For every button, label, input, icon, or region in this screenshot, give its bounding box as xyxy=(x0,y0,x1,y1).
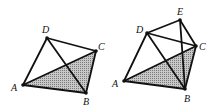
vertex-point-c xyxy=(194,44,198,48)
vertex-point-e xyxy=(178,18,182,22)
vertex-label-b: B xyxy=(184,93,190,104)
vertex-point-a xyxy=(122,79,126,83)
vertex-point-b xyxy=(84,91,88,95)
vertex-label-d: D xyxy=(135,24,144,35)
vertex-label-a: A xyxy=(10,82,18,93)
figure-left-quadrilateral: ABCD xyxy=(10,24,105,107)
vertex-point-a xyxy=(21,83,25,87)
vertex-label-b: B xyxy=(83,96,89,107)
geometry-diagram: ABCD ABCDE xyxy=(0,0,221,112)
vertex-point-b xyxy=(183,87,187,91)
vertex-label-c: C xyxy=(98,41,105,52)
segment-de xyxy=(147,20,180,33)
vertex-label-d: D xyxy=(41,24,50,35)
vertex-label-a: A xyxy=(111,78,119,89)
vertex-label-e: E xyxy=(176,6,183,17)
vertex-label-c: C xyxy=(199,41,206,52)
vertex-point-d xyxy=(145,31,149,35)
figure-right-pentagon: ABCDE xyxy=(111,6,206,104)
vertex-point-d xyxy=(45,36,49,40)
